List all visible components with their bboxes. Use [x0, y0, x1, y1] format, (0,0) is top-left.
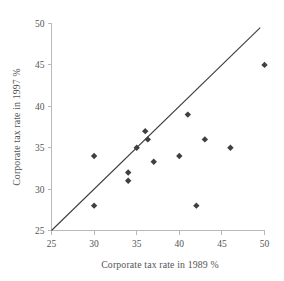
y-tick-labels: 253035404550 — [35, 19, 45, 236]
data-point-marker — [193, 202, 199, 208]
x-tick-label: 30 — [89, 239, 99, 249]
y-tick-label: 30 — [35, 185, 45, 195]
x-tick-label: 35 — [132, 239, 142, 249]
data-point-marker — [91, 153, 97, 159]
data-point-marker — [227, 145, 233, 151]
data-point-marker — [176, 153, 182, 159]
data-point-marker — [125, 169, 131, 175]
x-axis-title: Corporate tax rate in 1989 % — [101, 259, 219, 270]
data-point-marker — [142, 128, 148, 134]
data-point-marker — [125, 178, 131, 184]
x-tick-label: 40 — [175, 239, 185, 249]
x-tick-label: 45 — [217, 239, 227, 249]
data-point-marker — [261, 62, 267, 68]
x-tick-label: 50 — [260, 239, 270, 249]
data-point-marker — [185, 111, 191, 117]
plot-area: 253035404550 253035404550 Corporate tax … — [0, 0, 284, 281]
scatter-chart: 253035404550 253035404550 Corporate tax … — [0, 0, 284, 281]
identity-reference-line — [52, 28, 261, 231]
y-tick-label: 35 — [35, 143, 45, 153]
identity-line-segment — [52, 28, 261, 231]
data-points — [91, 62, 268, 209]
x-tick-labels: 253035404550 — [47, 239, 270, 249]
y-tick-label: 50 — [35, 19, 45, 29]
data-point-marker — [91, 202, 97, 208]
y-tick-label: 45 — [35, 60, 45, 70]
data-point-marker — [202, 136, 208, 142]
data-point-marker — [145, 136, 151, 142]
y-tick-label: 40 — [35, 102, 45, 112]
data-point-marker — [151, 159, 157, 165]
x-tick-label: 25 — [47, 239, 57, 249]
y-tick-label: 25 — [35, 226, 45, 236]
y-axis-title: Corporate tax rate in 1997 % — [11, 68, 22, 186]
